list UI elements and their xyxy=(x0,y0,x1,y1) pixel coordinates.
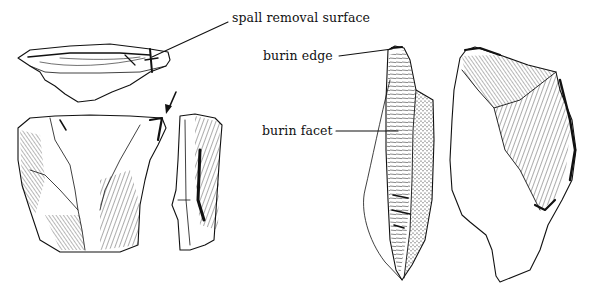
burin-blow-arrow-icon xyxy=(165,92,176,114)
burin-center-view xyxy=(364,46,434,280)
burin-front-view xyxy=(18,115,166,252)
burin-edge-leader xyxy=(339,49,392,56)
burin-illustration: spall removal surface burin edge burin f… xyxy=(0,0,589,299)
label-burin-edge: burin edge xyxy=(263,50,333,63)
spall-removal-leader xyxy=(152,22,228,57)
label-spall-removal-surface: spall removal surface xyxy=(232,12,370,25)
burin-side-view xyxy=(172,114,222,250)
burin-right-view xyxy=(450,47,576,282)
spall-fragment xyxy=(18,44,170,102)
label-burin-facet: burin facet xyxy=(262,125,333,138)
artifact-drawings xyxy=(0,0,589,299)
